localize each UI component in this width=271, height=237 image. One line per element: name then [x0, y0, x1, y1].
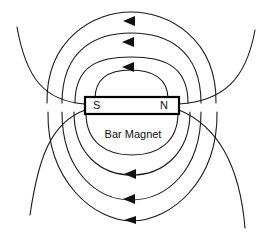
arrow-bottom-2-icon — [123, 194, 135, 204]
field-line-top-5 — [17, 27, 85, 104]
bar-magnet-figure: S N Bar Magnet — [0, 0, 271, 237]
arrow-bottom-1-icon — [124, 169, 136, 179]
field-line-top-5-right — [179, 30, 255, 104]
upper-field-lines — [17, 12, 255, 104]
south-pole-label: S — [93, 99, 100, 111]
field-line-top-1 — [95, 70, 168, 99]
arrow-top-2-icon — [122, 37, 134, 47]
bar-magnet: S N — [85, 97, 179, 114]
north-pole-label: N — [160, 99, 168, 111]
field-line-bottom-5 — [30, 110, 85, 215]
field-line-bottom-3 — [62, 112, 201, 200]
field-line-bottom-2 — [74, 112, 190, 175]
magnetic-field-diagram: S N Bar Magnet — [0, 0, 271, 237]
arrow-bottom-3-icon — [124, 216, 136, 224]
arrow-top-1-icon — [123, 16, 135, 26]
field-direction-arrows — [122, 16, 136, 224]
figure-caption: Bar Magnet — [105, 128, 162, 140]
